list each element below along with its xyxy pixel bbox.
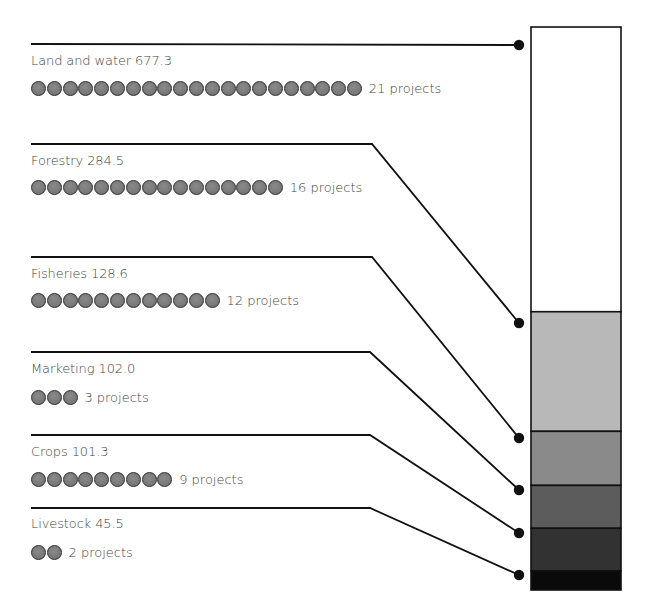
project-dot-icon: [142, 180, 157, 195]
project-dot-icon: [300, 81, 315, 96]
project-dot-icon: [47, 180, 62, 195]
project-dot-icon: [126, 293, 141, 308]
projects-row-crops: 9 projects: [31, 471, 243, 487]
project-dot-icon: [268, 81, 283, 96]
project-dot-icon: [189, 293, 204, 308]
project-dot-icon: [142, 81, 157, 96]
label-livestock: Livestock 45.5: [31, 516, 124, 531]
project-dot-icon: [126, 180, 141, 195]
leader-dot-icon: [514, 40, 524, 50]
project-dot-icon: [221, 81, 236, 96]
project-dot-icon: [347, 81, 362, 96]
project-dot-icon: [78, 81, 93, 96]
project-dot-icon: [126, 81, 141, 96]
project-dot-icon: [78, 180, 93, 195]
projects-count-livestock: 2 projects: [69, 545, 133, 560]
project-dot-icon: [31, 545, 46, 560]
bar-segment-fisheries: [531, 431, 621, 485]
projects-count-land-and-water: 21 projects: [369, 81, 442, 96]
project-dot-icon: [142, 293, 157, 308]
projects-count-crops: 9 projects: [179, 472, 243, 487]
project-dot-icon: [31, 293, 46, 308]
project-dot-icon: [63, 293, 78, 308]
project-dot-icon: [94, 472, 109, 487]
project-dot-icon: [157, 81, 172, 96]
project-dot-icon: [94, 81, 109, 96]
project-dot-icon: [126, 472, 141, 487]
project-dot-icon: [221, 180, 236, 195]
project-dot-icon: [63, 390, 78, 405]
project-dot-icon: [205, 180, 220, 195]
project-dot-icon: [94, 293, 109, 308]
bar-segment-livestock: [531, 571, 621, 590]
project-dot-icon: [78, 472, 93, 487]
project-dot-icon: [47, 545, 62, 560]
project-dot-icon: [94, 180, 109, 195]
project-dot-icon: [31, 81, 46, 96]
project-dot-icon: [110, 180, 125, 195]
leader-dot-icon: [514, 528, 524, 538]
project-dot-icon: [205, 81, 220, 96]
project-dots: [31, 293, 221, 308]
project-dots: [31, 81, 363, 96]
project-dots: [31, 390, 78, 405]
project-dots: [31, 545, 63, 560]
stacked-bar: [531, 27, 621, 590]
project-dot-icon: [157, 472, 172, 487]
bar-segment-land-and-water: [531, 27, 621, 312]
projects-row-land-and-water: 21 projects: [31, 80, 441, 96]
label-land-and-water: Land and water 677.3: [31, 53, 172, 68]
project-dots: [31, 180, 284, 195]
project-dot-icon: [110, 81, 125, 96]
project-dot-icon: [47, 472, 62, 487]
projects-count-fisheries: 12 projects: [227, 293, 300, 308]
leader-dot-icon: [514, 485, 524, 495]
label-forestry: Forestry 284.5: [31, 153, 124, 168]
bar-segment-forestry: [531, 312, 621, 432]
bar-segment-marketing: [531, 485, 621, 528]
leader-dot-icon: [514, 570, 524, 580]
project-dot-icon: [268, 180, 283, 195]
project-dot-icon: [31, 180, 46, 195]
project-dot-icon: [157, 293, 172, 308]
project-dot-icon: [31, 390, 46, 405]
leader-dot-icon: [514, 433, 524, 443]
label-fisheries: Fisheries 128.6: [31, 266, 128, 281]
leader-dot-icon: [514, 318, 524, 328]
project-dot-icon: [63, 472, 78, 487]
label-marketing: Marketing 102.0: [31, 361, 135, 376]
project-dot-icon: [173, 81, 188, 96]
project-dot-icon: [284, 81, 299, 96]
bar-segment-crops: [531, 528, 621, 571]
project-dot-icon: [31, 472, 46, 487]
project-dot-icon: [189, 81, 204, 96]
project-dot-icon: [78, 293, 93, 308]
project-dot-icon: [142, 472, 157, 487]
project-dot-icon: [47, 390, 62, 405]
leader-line: [31, 257, 519, 438]
project-dot-icon: [47, 293, 62, 308]
projects-row-livestock: 2 projects: [31, 544, 133, 560]
project-dot-icon: [173, 293, 188, 308]
project-dot-icon: [157, 180, 172, 195]
projects-count-marketing: 3 projects: [84, 390, 148, 405]
project-dot-icon: [189, 180, 204, 195]
project-dot-icon: [110, 293, 125, 308]
project-dot-icon: [63, 180, 78, 195]
projects-row-marketing: 3 projects: [31, 389, 149, 405]
projects-row-forestry: 16 projects: [31, 179, 362, 195]
project-dot-icon: [236, 180, 251, 195]
project-dot-icon: [331, 81, 346, 96]
project-dot-icon: [173, 180, 188, 195]
leader-line: [31, 44, 519, 45]
project-dot-icon: [205, 293, 220, 308]
project-dot-icon: [315, 81, 330, 96]
project-dot-icon: [63, 81, 78, 96]
projects-row-fisheries: 12 projects: [31, 292, 299, 308]
project-dot-icon: [252, 81, 267, 96]
project-dot-icon: [47, 81, 62, 96]
project-dots: [31, 472, 173, 487]
project-dot-icon: [110, 472, 125, 487]
leader-lines: [31, 40, 524, 580]
project-dot-icon: [236, 81, 251, 96]
